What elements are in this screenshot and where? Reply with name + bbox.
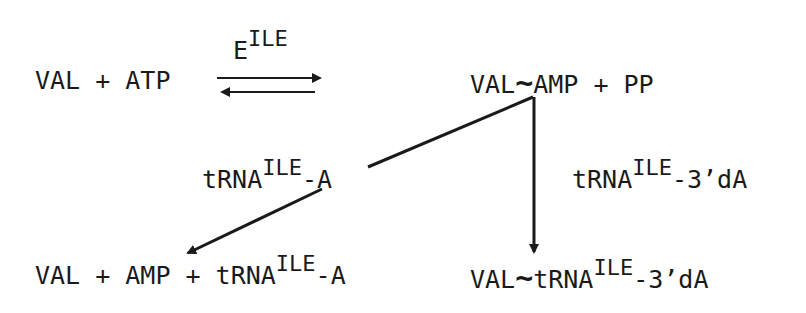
branch-left-suffix: -A bbox=[302, 165, 332, 194]
intermediate: VAL~AMP + PP bbox=[470, 68, 654, 98]
branch-left-arrow bbox=[188, 189, 322, 253]
branch-right-suffix: -3’dA bbox=[672, 165, 747, 194]
product-right-suffix: -3’dA bbox=[633, 265, 708, 294]
branch-right-label: tRNAILE-3’dA bbox=[572, 167, 747, 192]
branch-right-base: tRNA bbox=[572, 165, 632, 194]
intermediate-right: AMP + PP bbox=[533, 70, 653, 99]
product-left-superscript: ILE bbox=[276, 251, 316, 276]
product-right-superscript: ILE bbox=[593, 255, 633, 280]
branch-left-base: tRNA bbox=[202, 165, 262, 194]
branch-left-label: tRNAILE-A bbox=[202, 167, 332, 192]
reactants: VAL + ATP bbox=[35, 68, 170, 93]
enzyme-base: E bbox=[233, 36, 248, 65]
branch-left-line-upper bbox=[368, 97, 533, 167]
product-left: VAL + AMP + tRNAILE-A bbox=[35, 263, 346, 288]
product-right: VAL~tRNAILE-3’dA bbox=[470, 263, 708, 293]
product-left-prefix: VAL + AMP + tRNA bbox=[35, 261, 276, 290]
tilde-bond-icon: ~ bbox=[515, 65, 533, 100]
enzyme-superscript: ILE bbox=[248, 26, 288, 51]
product-right-left: VAL bbox=[470, 265, 515, 294]
intermediate-left: VAL bbox=[470, 70, 515, 99]
product-left-suffix: -A bbox=[316, 261, 346, 290]
product-right-base: tRNA bbox=[533, 265, 593, 294]
branch-right-superscript: ILE bbox=[632, 155, 672, 180]
tilde-bond-icon: ~ bbox=[515, 260, 533, 295]
enzyme-label: EILE bbox=[233, 38, 288, 63]
branch-left-superscript: ILE bbox=[262, 155, 302, 180]
